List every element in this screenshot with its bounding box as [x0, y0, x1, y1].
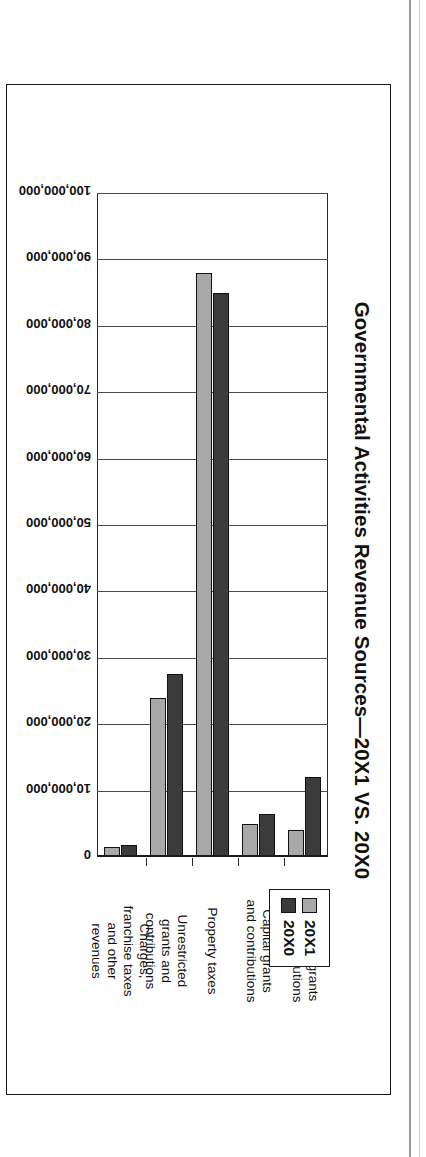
page-edge-rule	[409, 0, 411, 1157]
chart-legend: 20X1 20X0	[269, 889, 330, 967]
plot-area	[97, 193, 328, 857]
gridline	[97, 259, 328, 260]
bar-20x0-2	[213, 293, 229, 857]
gridline	[97, 193, 328, 194]
bar-20x1-0	[288, 830, 304, 857]
bar-20x1-1	[242, 824, 258, 857]
legend-label-20x1: 20X1	[301, 920, 319, 956]
bar-20x0-1	[259, 814, 275, 857]
legend-swatch-20x0	[282, 898, 297, 913]
chart-figure: Governmental Activities Revenue Sources—…	[6, 84, 391, 1095]
bar-20x1-3	[150, 698, 166, 857]
legend-swatch-20x1	[303, 898, 318, 913]
bar-20x1-2	[196, 273, 212, 857]
legend-item-20x1: 20X1	[301, 898, 319, 956]
rotated-figure-wrapper: Governmental Activities Revenue Sources—…	[6, 84, 391, 1095]
scanned-page: Governmental Activities Revenue Sources—…	[0, 0, 426, 1157]
category-tick	[192, 858, 193, 866]
legend-label-20x0: 20X0	[280, 920, 298, 956]
bar-20x0-0	[305, 777, 321, 857]
chart-title: Governmental Activities Revenue Sources—…	[350, 85, 374, 1096]
page-edge-rule-secondary	[419, 0, 420, 1157]
category-tick	[284, 858, 285, 866]
value-axis-baseline	[97, 855, 328, 857]
category-tick	[238, 858, 239, 866]
category-label-2: Property taxes	[205, 871, 221, 1031]
legend-item-20x0: 20X0	[280, 898, 298, 956]
bar-20x0-3	[167, 674, 183, 857]
category-label-4: Charges,franchise taxesand otherrevenues	[88, 871, 152, 1031]
category-tick	[146, 858, 147, 866]
